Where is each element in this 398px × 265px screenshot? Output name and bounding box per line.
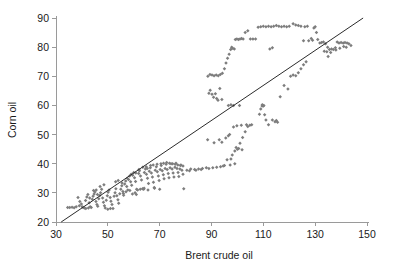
y-tick-label: 80	[37, 41, 49, 53]
data-point	[171, 171, 175, 175]
data-point	[205, 166, 209, 170]
data-point	[259, 25, 263, 29]
data-point	[334, 48, 338, 52]
data-point	[84, 199, 88, 203]
y-tick-label: 30	[37, 187, 49, 199]
data-point	[288, 24, 292, 28]
data-point	[316, 38, 320, 42]
data-point	[258, 112, 262, 116]
data-point	[220, 140, 224, 144]
data-point	[130, 184, 134, 188]
data-point	[264, 25, 268, 29]
y-tick-label: 60	[37, 99, 49, 111]
data-point	[259, 107, 263, 111]
x-tick-label: 30	[50, 228, 62, 240]
data-point	[102, 183, 106, 187]
data-point	[226, 56, 230, 60]
x-tick-label: 70	[154, 228, 166, 240]
data-point	[120, 184, 124, 188]
data-point	[149, 164, 153, 168]
x-tick-label: 50	[102, 228, 114, 240]
data-point	[218, 87, 222, 91]
data-point	[115, 194, 119, 198]
data-point	[228, 163, 232, 167]
data-point	[262, 24, 266, 28]
data-point	[94, 200, 98, 204]
data-point	[157, 174, 161, 178]
data-point	[220, 98, 224, 102]
data-point	[109, 200, 113, 204]
data-point	[240, 123, 244, 127]
data-point	[218, 138, 222, 142]
data-point	[315, 31, 319, 35]
data-point	[238, 142, 242, 146]
data-point	[110, 203, 114, 207]
data-point	[304, 60, 308, 64]
data-point	[299, 67, 303, 71]
data-point	[223, 67, 227, 71]
data-point	[227, 104, 231, 108]
y-axis-title: Corn oil	[6, 102, 18, 138]
data-point	[329, 51, 333, 55]
data-point	[214, 92, 218, 96]
data-point	[277, 24, 281, 28]
trend-line	[61, 18, 363, 222]
data-point	[151, 163, 155, 167]
data-point	[280, 25, 284, 29]
chart-canvas: 2030405060708090 30507090110130150 Brent…	[0, 0, 398, 265]
data-point	[116, 198, 120, 202]
data-point	[102, 200, 106, 204]
data-point	[233, 149, 237, 153]
data-point	[125, 185, 129, 189]
data-point	[181, 172, 185, 176]
data-point	[233, 162, 237, 166]
data-point	[172, 175, 176, 179]
y-tick-label: 90	[37, 12, 49, 24]
data-point	[282, 84, 286, 88]
data-point	[167, 176, 171, 180]
data-point	[140, 178, 144, 182]
data-point	[240, 148, 244, 152]
data-point	[147, 182, 151, 186]
data-point	[303, 25, 307, 29]
y-tick-label: 20	[37, 216, 49, 228]
data-point	[108, 196, 112, 200]
data-point	[302, 39, 306, 43]
data-point	[294, 74, 298, 78]
data-point	[224, 136, 228, 140]
data-point	[278, 95, 282, 99]
data-point	[338, 47, 342, 51]
data-point	[227, 52, 231, 56]
data-point	[307, 39, 311, 43]
data-point	[302, 63, 306, 67]
data-point	[206, 138, 210, 142]
data-point	[275, 24, 279, 28]
data-point	[157, 179, 161, 183]
data-point	[146, 177, 150, 181]
data-point	[267, 123, 271, 127]
data-point	[215, 165, 219, 169]
y-axis-tick-labels: 2030405060708090	[37, 12, 49, 228]
data-point	[212, 141, 216, 145]
data-point	[177, 175, 181, 179]
data-point	[98, 185, 102, 189]
data-point	[101, 196, 105, 200]
x-axis-tick-labels: 30507090110130150	[50, 228, 376, 240]
trend-line-segment	[61, 18, 363, 222]
data-point	[345, 45, 349, 49]
data-point	[254, 37, 257, 41]
data-point	[158, 188, 162, 192]
data-point	[166, 172, 170, 176]
data-point	[162, 173, 166, 177]
data-point	[208, 89, 212, 93]
data-point	[224, 61, 228, 64]
data-points	[66, 22, 353, 211]
data-point	[306, 24, 310, 28]
data-point	[243, 130, 247, 134]
data-point	[269, 25, 273, 29]
data-point	[113, 191, 117, 195]
data-point	[225, 158, 229, 162]
x-axis-title: Brent crude oil	[185, 249, 253, 261]
data-point	[326, 55, 330, 59]
data-point	[134, 180, 138, 184]
